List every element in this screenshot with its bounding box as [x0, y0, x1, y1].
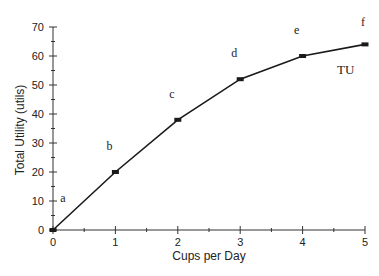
y-tick-label: 40 — [32, 108, 44, 120]
point-label-d: d — [231, 46, 237, 60]
y-tick-label: 0 — [38, 224, 44, 236]
y-tick-label: 20 — [32, 166, 44, 178]
x-axis: 012345 — [50, 226, 368, 248]
y-axis-title: Total Utility (utils) — [13, 85, 27, 176]
x-tick-label: 3 — [237, 236, 243, 248]
point-labels: abcdef — [60, 15, 365, 205]
y-tick-label: 30 — [32, 137, 44, 149]
total-utility-chart: 010203040506070 012345 Total Utility (ut… — [0, 0, 379, 276]
data-point-marker — [299, 54, 306, 58]
data-point-marker — [174, 118, 181, 122]
x-tick-label: 5 — [362, 236, 368, 248]
x-tick-label: 1 — [112, 236, 118, 248]
point-label-e: e — [294, 23, 299, 37]
point-label-f: f — [361, 15, 365, 29]
tu-curve — [50, 42, 369, 232]
series-label-tu: TU — [337, 62, 355, 77]
data-point-marker — [50, 228, 57, 232]
data-point-marker — [237, 77, 244, 81]
x-axis-title: Cups per Day — [172, 249, 245, 263]
x-tick-label: 2 — [175, 236, 181, 248]
y-tick-label: 50 — [32, 79, 44, 91]
point-label-c: c — [169, 87, 174, 101]
y-axis: 010203040506070 — [32, 21, 57, 236]
y-tick-label: 70 — [32, 21, 44, 33]
data-point-marker — [112, 170, 119, 174]
point-label-a: a — [60, 191, 66, 205]
point-label-b: b — [106, 139, 112, 153]
x-tick-label: 4 — [300, 236, 306, 248]
y-tick-label: 10 — [32, 195, 44, 207]
x-tick-label: 0 — [50, 236, 56, 248]
y-tick-label: 60 — [32, 50, 44, 62]
data-point-marker — [362, 42, 369, 46]
